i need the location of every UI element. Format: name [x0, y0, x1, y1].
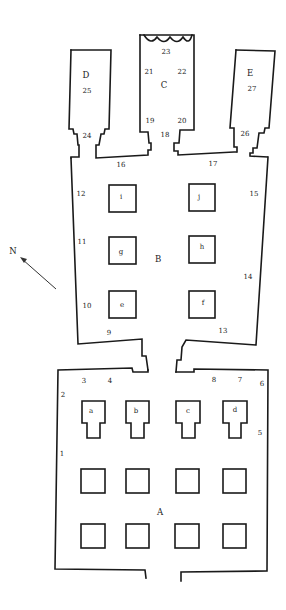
pillar-a: [82, 401, 105, 438]
room-label-c: C: [161, 80, 168, 90]
room-label-a: A: [156, 507, 164, 517]
location-8: 8: [212, 376, 216, 384]
hall-b: [71, 157, 268, 372]
location-9: 9: [107, 329, 111, 337]
location-25: 25: [83, 87, 92, 95]
pillar-label-e: e: [120, 301, 124, 309]
location-12: 12: [77, 190, 86, 198]
location-13: 13: [219, 327, 228, 335]
pillar-i: [109, 185, 136, 212]
hall-a-square-pillars: [81, 469, 246, 548]
location-20: 20: [178, 117, 187, 125]
location-27: 27: [248, 85, 257, 93]
room-label-d: D: [83, 70, 90, 80]
location-10: 10: [83, 302, 92, 310]
location-1: 1: [60, 450, 64, 458]
location-19: 19: [146, 117, 155, 125]
shrine-e: [230, 50, 275, 157]
north-arrow: N: [9, 246, 56, 290]
pillar-label-g: g: [119, 248, 124, 256]
pillar-label-d: d: [233, 406, 238, 414]
location-23: 23: [162, 48, 171, 56]
location-14: 14: [244, 273, 253, 281]
pillar-label-a: a: [89, 407, 93, 415]
location-4: 4: [108, 377, 113, 385]
pillar-label-b: b: [134, 407, 139, 415]
location-17: 17: [209, 160, 218, 168]
hall-b-pillars: [109, 184, 215, 318]
location-21: 21: [145, 68, 154, 76]
location-22: 22: [178, 68, 187, 76]
location-6: 6: [260, 380, 265, 388]
location-11: 11: [78, 238, 87, 246]
location-24: 24: [83, 132, 92, 140]
hall-a: [55, 368, 268, 581]
room-label-e: E: [247, 68, 253, 78]
location-2: 2: [61, 391, 65, 399]
pillar-label-j: j: [197, 193, 200, 201]
location-18: 18: [161, 131, 170, 139]
hall-a-shaped-pillars: [82, 401, 247, 438]
shrine-c-niches: [144, 35, 192, 42]
pillar-j: [189, 184, 215, 211]
pillar-label-i: i: [120, 193, 123, 201]
north-label: N: [9, 246, 17, 256]
floor-plan: N A B C D E a b c d e f g h i j 1 2 3 4 …: [0, 0, 286, 610]
pillar-label-f: f: [202, 299, 206, 307]
location-5: 5: [258, 429, 262, 437]
location-26: 26: [241, 130, 250, 138]
location-16: 16: [117, 161, 126, 169]
location-7: 7: [238, 376, 242, 384]
pillar-label-h: h: [200, 243, 205, 251]
shrine-d: [69, 35, 151, 158]
location-15: 15: [250, 190, 259, 198]
pillar-label-c: c: [186, 407, 190, 415]
room-label-b: B: [155, 254, 161, 264]
shrine-c: [140, 35, 236, 155]
location-3: 3: [82, 377, 86, 385]
